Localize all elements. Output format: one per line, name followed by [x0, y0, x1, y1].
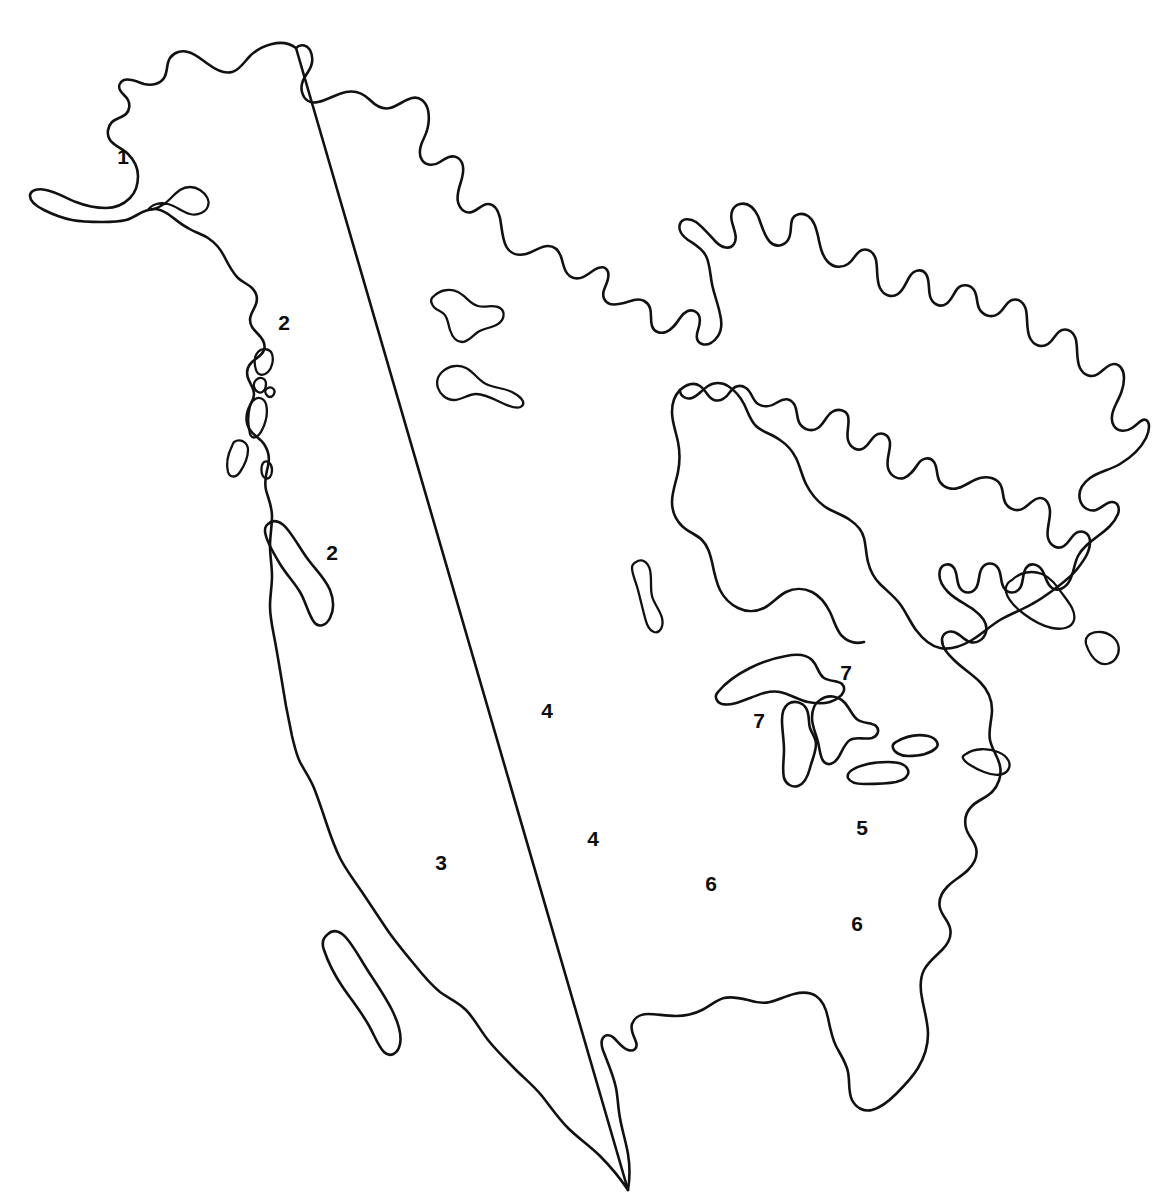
- coastal-islet-a-path: [254, 378, 266, 393]
- lake-huron-path: [812, 696, 878, 764]
- coastal-islet-d-path: [227, 440, 248, 476]
- region-label-6-b: 6: [851, 913, 863, 934]
- region-label-2-b: 2: [326, 542, 338, 563]
- region-label-5: 5: [856, 817, 868, 838]
- pacific-coast-path: [30, 43, 628, 1190]
- lake-erie-path: [848, 762, 909, 784]
- hudson-bay-west-shore-path: [672, 390, 864, 643]
- region-label-1: 1: [117, 146, 129, 167]
- region-label-2-a: 2: [278, 312, 290, 333]
- long-island-path: [963, 749, 1010, 775]
- lake-ontario-path: [893, 735, 938, 756]
- lake-winnipeg-path: [632, 560, 663, 632]
- region-label-3: 3: [435, 852, 447, 873]
- region-label-4-b: 4: [587, 828, 599, 849]
- region-label-7-b: 7: [753, 710, 765, 731]
- baja-california-path: [323, 931, 401, 1055]
- region-label-6-a: 6: [705, 873, 717, 894]
- region-label-7-a: 7: [840, 662, 852, 683]
- region-label-4-a: 4: [541, 700, 553, 721]
- continental-outline-path: [296, 45, 1149, 1190]
- coastal-islet-b-path: [265, 387, 274, 397]
- nova-scotia-path: [1086, 632, 1119, 664]
- arctic-island-upper-path: [431, 290, 504, 342]
- arctic-island-lower-path: [437, 366, 523, 408]
- map-figure: 1 2 2 3 4 4 5 6 6 7 7: [0, 0, 1158, 1203]
- north-america-outline-svg: [0, 0, 1158, 1203]
- vancouver-island-path: [265, 521, 333, 625]
